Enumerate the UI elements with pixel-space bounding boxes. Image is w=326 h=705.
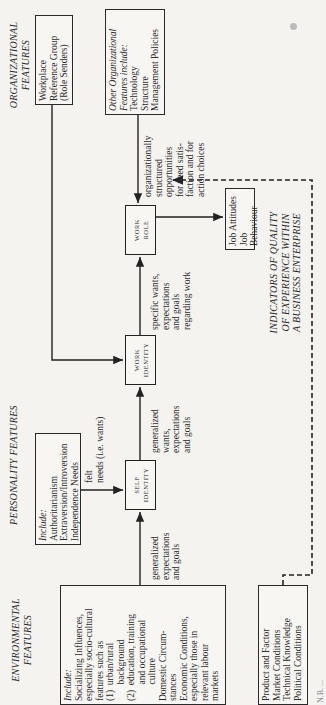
box-line: especially those in — [189, 589, 200, 701]
box-line: Management Policies — [150, 13, 161, 111]
title-line: FEATURES — [22, 585, 34, 695]
personality-features-box: Include: Authoritarianism Extraversion/I… — [35, 433, 81, 545]
box-line: features such as — [95, 589, 106, 701]
work-to-role-label: specific wants, expectations and goals r… — [150, 272, 192, 330]
box-line: Job Behaviour — [239, 192, 260, 246]
box-line: Job Attitudes — [228, 192, 239, 246]
indicators-caption: INDICATORS OF QUALITY OF EXPERIENCE WITH… — [268, 165, 303, 380]
label-line: faction and for — [185, 135, 196, 197]
label-line: expectations — [161, 533, 172, 580]
environmental-features-title: ENVIRONMENTAL FEATURES — [10, 585, 34, 695]
label-line: and goals — [171, 272, 182, 330]
footnote: N.B. ... — [316, 680, 325, 703]
box-line: Features include: — [119, 13, 130, 111]
include-label: Include: — [38, 437, 49, 541]
label-line: structured — [154, 135, 165, 197]
box-line: Socializing Influences, — [74, 589, 85, 701]
work-role-node: WORKROLE — [125, 205, 156, 255]
personality-features-title: PERSONALITY FEATURES — [8, 390, 20, 540]
label-line: specific wants, — [150, 272, 161, 330]
org-to-role-label: organizationally structured opportunitie… — [143, 135, 206, 197]
node-line: WORK — [132, 219, 141, 241]
box-line: culture — [147, 589, 158, 701]
box-line: background — [116, 589, 127, 701]
label-line: regarding work — [182, 272, 193, 330]
market-conditions-box: Product and Factor Market Conditions Tec… — [258, 585, 308, 705]
box-line: Domestic Circum- — [158, 589, 169, 701]
self-to-work-label: generalized wants, expectations and goal… — [150, 406, 192, 453]
label-line: and goals — [182, 406, 193, 453]
include-label: Include: — [63, 589, 74, 701]
label-line: action choices — [196, 135, 207, 197]
box-line: Market Conditions — [272, 589, 283, 701]
node-line: SELF — [132, 468, 141, 502]
node-line: IDENTITY — [141, 343, 150, 377]
box-line: stances — [168, 589, 179, 701]
box-line: Technical Knowledge — [282, 589, 293, 701]
node-line: IDENTITY — [141, 468, 150, 502]
label-line: opportunities — [164, 135, 175, 197]
box-line: Structure — [140, 13, 151, 111]
other-organizational-features-box: Other Organizational Features include: T… — [105, 9, 165, 115]
label-line: generalized — [150, 406, 161, 453]
title-line: ENVIRONMENTAL — [10, 585, 22, 695]
box-line: (Role Senders) — [59, 19, 70, 101]
box-line: (2) education, training — [126, 589, 137, 701]
label-line: needs (i.e. wants) — [95, 417, 106, 483]
self-identity-node: SELFIDENTITY — [125, 460, 156, 510]
label-line: organizationally — [143, 135, 154, 197]
box-line: Reference Group — [49, 19, 60, 101]
caption-line: A BUSINESS ENTERPRISE — [291, 165, 303, 380]
box-line: Authoritarianism — [49, 437, 60, 541]
diagram-canvas: ENVIRONMENTAL FEATURES PERSONALITY FEATU… — [0, 0, 326, 705]
label-line: expectations — [171, 406, 182, 453]
decorative-dot — [290, 23, 297, 30]
box-line: Independence Needs — [70, 437, 81, 541]
box-line: Technology — [129, 13, 140, 111]
label-line: expectations — [161, 272, 172, 330]
work-identity-node: WORKIDENTITY — [125, 335, 156, 385]
node-line: ROLE — [141, 219, 150, 241]
felt-needs-label: felt needs (i.e. wants) — [84, 417, 105, 483]
title-line: FEATURES — [20, 10, 32, 120]
label-line: for need satis- — [175, 135, 186, 197]
organizational-features-title: ORGANIZATIONAL FEATURES — [8, 10, 32, 120]
box-line: especially socio-cultural — [84, 589, 95, 701]
box-line: Product and Factor — [261, 589, 272, 701]
box-line: Workplace — [38, 19, 49, 101]
box-line: Economic Conditions, — [179, 589, 190, 701]
title-line: ORGANIZATIONAL — [8, 10, 20, 120]
box-line: relevant labour — [200, 589, 211, 701]
box-line: (1) urban/rural — [105, 589, 116, 701]
caption-line: OF EXPERIENCE WITHIN — [280, 165, 292, 380]
box-line: Political Conditions — [293, 589, 304, 701]
caption-line: INDICATORS OF QUALITY — [268, 165, 280, 380]
env-to-self-label: generalized expectations and goals — [150, 533, 182, 580]
label-line: generalized — [150, 533, 161, 580]
environmental-features-box: Include: Socializing Influences, especia… — [60, 585, 226, 705]
box-line: Other Organizational — [108, 13, 119, 111]
label-line: and goals — [171, 533, 182, 580]
workplace-reference-group-box: Workplace Reference Group (Role Senders) — [35, 15, 73, 105]
label-line: felt — [84, 417, 95, 483]
node-line: WORK — [132, 343, 141, 377]
box-line: and occupational — [137, 589, 148, 701]
box-line: Extraversion/Introversion — [59, 437, 70, 541]
label-line: wants, — [161, 406, 172, 453]
box-line: markets — [210, 589, 221, 701]
job-attitudes-box: Job Attitudes Job Behaviour — [225, 188, 255, 250]
